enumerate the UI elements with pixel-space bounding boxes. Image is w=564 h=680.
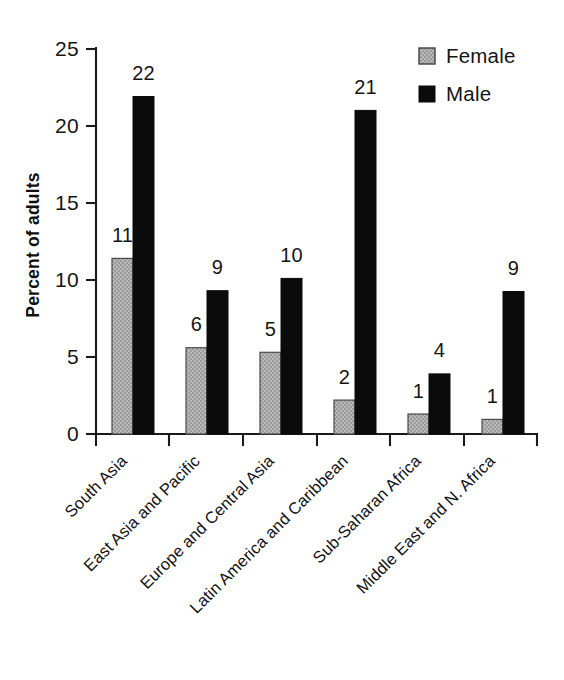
bar-value-label: 4 — [434, 339, 445, 361]
bar-female — [186, 348, 207, 434]
y-tick-label: 10 — [55, 268, 79, 291]
bar-value-label: 2 — [339, 366, 350, 388]
bar-female — [260, 352, 281, 434]
legend-label-female: Female — [446, 44, 516, 67]
bar-value-label: 9 — [212, 256, 223, 278]
bar-value-label: 1 — [413, 380, 424, 402]
bar-value-label: 22 — [132, 62, 155, 84]
bar-value-label: 10 — [280, 244, 303, 266]
legend-label-male: Male — [446, 82, 491, 105]
bar-male — [133, 97, 154, 435]
bar-value-label: 1 — [487, 385, 498, 407]
bar-value-label: 6 — [191, 313, 202, 335]
bar-male — [281, 278, 302, 434]
legend-swatch-male-icon — [419, 86, 435, 102]
bar-female — [334, 400, 355, 434]
bar-male — [355, 110, 376, 434]
bar-female — [482, 419, 503, 434]
legend-swatch-female-icon — [419, 48, 435, 64]
y-tick-label: 0 — [67, 422, 79, 445]
bar-male — [429, 374, 450, 434]
bar-chart: 25 20 15 10 5 0 Percent of adults 11 22 … — [0, 0, 564, 680]
bar-male — [503, 292, 524, 435]
bar-female — [408, 414, 429, 434]
y-axis-title: Percent of adults — [23, 172, 43, 317]
y-tick-label: 20 — [55, 114, 79, 137]
y-tick-label: 15 — [55, 191, 79, 214]
bar-value-label: 5 — [265, 318, 276, 340]
y-tick-label: 25 — [55, 37, 79, 60]
bar-female — [112, 258, 133, 434]
chart-container: 25 20 15 10 5 0 Percent of adults 11 22 … — [0, 0, 564, 680]
legend-item-female[interactable]: Female — [419, 44, 516, 67]
bar-male — [207, 291, 228, 434]
bar-value-label: 11 — [112, 224, 133, 246]
y-tick-label: 5 — [67, 345, 79, 368]
bar-value-label: 21 — [354, 76, 377, 98]
bar-value-label: 9 — [508, 257, 519, 279]
